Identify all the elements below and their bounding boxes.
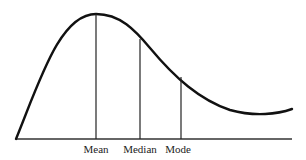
distribution-curve xyxy=(16,14,292,139)
mode-label: Mode xyxy=(165,143,191,155)
mean-label: Mean xyxy=(83,143,108,155)
median-label: Median xyxy=(123,143,157,155)
distribution-diagram xyxy=(0,0,306,160)
